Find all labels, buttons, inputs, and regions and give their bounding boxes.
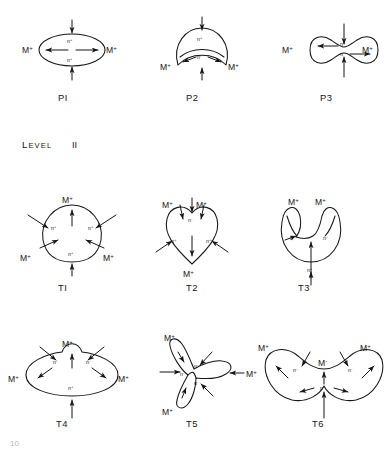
p3-caption: P3 — [320, 92, 332, 103]
t6-arrow-ll — [276, 366, 288, 378]
p1-node-top: n+ — [67, 37, 73, 44]
p2-charge-left: M+ — [160, 62, 171, 72]
p2-caption: P2 — [186, 92, 198, 103]
t1-node-bottom: n+ — [68, 250, 74, 257]
section-level-two: LEVEL II — [22, 139, 77, 150]
t6-node-center: n- — [320, 384, 325, 391]
t1-charge-top: M+ — [62, 195, 73, 205]
t6-charge-left: M+ — [258, 343, 269, 353]
t3-caption: T3 — [298, 282, 310, 293]
figure-number-fragment: 10 — [10, 439, 19, 448]
t4-arrow-lr — [92, 368, 106, 378]
diagram-canvas: M+ M+ n+ n+ PI M+ M+ n+ n- P2 M — [0, 0, 384, 450]
t2-arrow-lr — [212, 241, 228, 252]
p2-node-top: n+ — [197, 35, 203, 42]
p1-charge-right: M+ — [106, 45, 117, 55]
shape-t1: M+ M+ M+ n+ n+ n+ TI — [20, 195, 116, 293]
p2-inner-curve — [180, 50, 224, 58]
t1-charge-right: M+ — [103, 253, 114, 263]
t4-arrow-ll — [38, 368, 52, 378]
t6-node-left: n- — [293, 366, 298, 373]
t2-charge-left: M+ — [162, 200, 173, 210]
t4-node-left: n- — [53, 358, 58, 365]
t1-charge-left: M+ — [20, 253, 31, 263]
t2-caption: T2 — [186, 282, 198, 293]
level-label: LEVEL — [22, 139, 52, 150]
t3-node-right: n- — [323, 234, 328, 241]
t6-charge-center: M- — [318, 358, 327, 368]
t4-charge-right: M+ — [118, 374, 129, 384]
t6-node-right: n- — [348, 366, 353, 373]
t6-caption: T6 — [312, 418, 324, 429]
t6-charge-right: M+ — [360, 343, 371, 353]
t5-node-lower: n- — [194, 379, 199, 386]
p1-caption: PI — [58, 92, 68, 103]
figure-root: M+ M+ n+ n+ PI M+ M+ n+ n- P2 M — [0, 0, 384, 450]
p1-node-bottom: n+ — [67, 56, 73, 63]
t5-node-upper: n- — [194, 362, 199, 369]
p2-outline — [177, 28, 228, 65]
t1-arrow-lr — [86, 240, 104, 248]
t2-node-center: n- — [188, 216, 193, 223]
t4-caption: T4 — [56, 418, 68, 429]
t5-charge-upper: M+ — [164, 333, 175, 343]
t6-arrow-inner-l — [300, 388, 314, 392]
shape-p1: M+ M+ n+ n+ PI — [22, 20, 117, 103]
t4-charge-left: M+ — [8, 374, 19, 384]
shape-t5: M+ M+ M+ n- n- n- T5 — [160, 333, 257, 429]
p3-node-bottom: n- — [340, 50, 345, 57]
p3-charge-right: M+ — [362, 45, 373, 55]
t1-arrow-ul — [28, 215, 48, 228]
t4-charge-top: M+ — [62, 339, 73, 349]
t3-inner-right — [325, 216, 335, 236]
shape-p3: M+ M+ n+ n- P3 — [282, 24, 378, 103]
t3-charge-left: M+ — [288, 197, 299, 207]
t2-charge-bottom: M+ — [183, 269, 194, 279]
t3-node-bottom: n+ — [307, 266, 313, 273]
t3-node-left: n- — [290, 234, 295, 241]
t3-charge-right: M+ — [315, 197, 326, 207]
p1-charge-left: M+ — [22, 45, 33, 55]
t6-arrow-lr — [362, 366, 374, 378]
t4-node-bottom: n+ — [68, 384, 74, 391]
t3-inner-left — [287, 216, 297, 236]
t5-arrow-lr — [201, 384, 213, 396]
t1-node-left: n+ — [51, 224, 57, 231]
t1-node-right: n+ — [88, 224, 94, 231]
shape-t4: M+ M+ M+ n- n- n+ T4 — [8, 339, 129, 429]
t5-outline — [170, 339, 231, 408]
shape-t3: M+ M+ n- n- n+ T3 — [281, 197, 340, 293]
t2-charge-right: M+ — [196, 200, 207, 210]
p3-charge-left: M+ — [282, 45, 293, 55]
t6-arrow-inner-r — [334, 388, 348, 392]
p2-charge-right: M+ — [228, 62, 239, 72]
t2-node-left: n+ — [171, 237, 177, 244]
t5-arrow-ul — [178, 352, 184, 362]
t4-node-right: n- — [86, 358, 91, 365]
t1-arrow-ll — [40, 240, 58, 248]
t1-caption: TI — [58, 282, 67, 293]
shape-t6: M+ M- M+ n- n- n- T6 — [258, 343, 383, 429]
t5-inner — [188, 372, 196, 378]
shape-t2: M+ M+ M+ n- n+ n+ T2 — [156, 198, 228, 293]
t5-node-left: n- — [180, 370, 185, 377]
t5-charge-lower: M+ — [162, 407, 173, 417]
p2-node-bottom: n- — [197, 53, 202, 60]
level-numeral: II — [72, 140, 77, 150]
t5-caption: T5 — [186, 418, 198, 429]
shape-p2: M+ M+ n+ n- P2 — [160, 17, 239, 103]
t1-arrow-ur — [96, 215, 116, 228]
t5-arrow-ll — [182, 388, 186, 398]
t5-charge-right: M+ — [246, 369, 257, 379]
t2-arrow-ll — [156, 241, 172, 252]
p3-node-top: n+ — [340, 40, 346, 47]
